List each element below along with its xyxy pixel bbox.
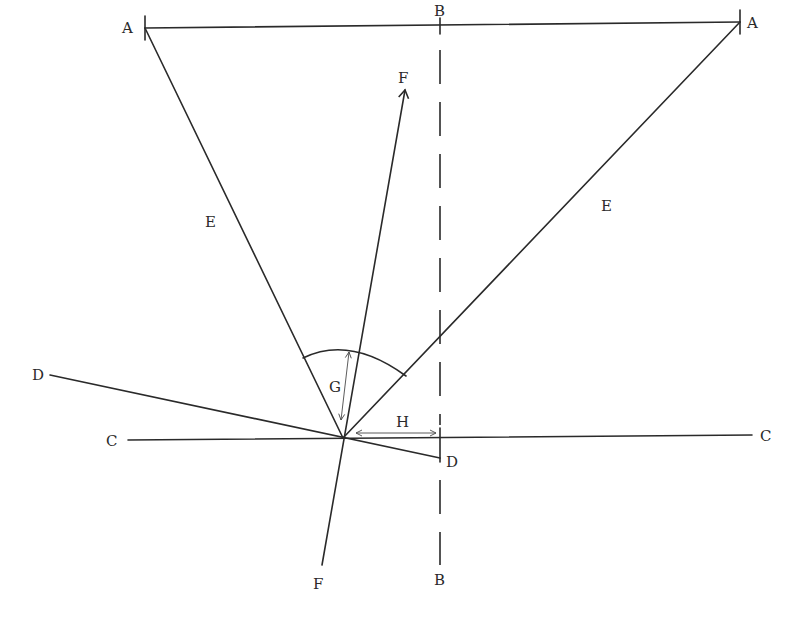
label-a-right: A: [746, 14, 758, 32]
label-d-left: D: [32, 366, 44, 384]
g-measure-arrow: [341, 352, 349, 420]
label-e-right: E: [601, 197, 612, 215]
label-h: H: [396, 413, 409, 431]
line-f-f: [322, 90, 405, 565]
geometry-diagram: A A B B C C D D E E F F G H: [0, 0, 805, 627]
label-c-right: C: [760, 427, 771, 445]
label-b-top: B: [434, 2, 445, 20]
label-f-bottom: F: [313, 575, 323, 593]
label-e-left: E: [205, 213, 216, 231]
label-g: G: [329, 378, 341, 396]
label-d-right: D: [446, 453, 458, 471]
line-e-left: [145, 28, 343, 438]
label-c-left: C: [106, 432, 117, 450]
label-a-left: A: [121, 19, 133, 37]
label-b-bottom: B: [434, 571, 445, 589]
label-f-top: F: [398, 69, 408, 87]
angle-arc: [303, 350, 406, 376]
